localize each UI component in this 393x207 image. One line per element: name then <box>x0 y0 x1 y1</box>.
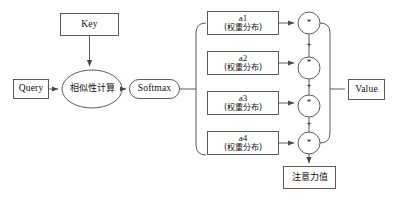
a2-box-shape <box>208 52 279 75</box>
similarity-ellipse-shape <box>62 70 122 108</box>
softmax-box-shape <box>130 80 180 99</box>
output-box-shape <box>284 167 336 189</box>
key-box-shape <box>61 14 119 36</box>
attention-diagram: Query Key 相似性计算 Softmax a1 (权重分布) a2 (权重… <box>0 0 393 207</box>
a4-box-shape <box>208 132 279 155</box>
multiply-circle-4-shape <box>298 132 320 154</box>
collector-bracket <box>320 23 345 143</box>
multiply-circle-3-shape <box>298 95 320 117</box>
multiply-circle-2-shape <box>298 57 320 79</box>
diagram-canvas <box>0 0 393 207</box>
multiply-circle-1-shape <box>298 12 320 34</box>
value-box-shape <box>349 80 385 100</box>
query-box-shape <box>14 80 49 99</box>
a1-box-shape <box>208 12 279 35</box>
a3-box-shape <box>208 92 279 115</box>
fanout-bracket <box>191 23 206 155</box>
